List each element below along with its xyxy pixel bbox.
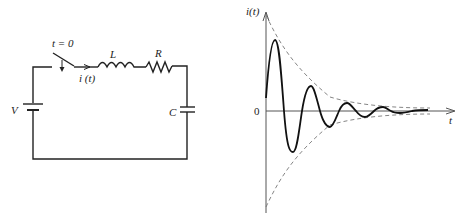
figure: t = 0 i (t) L R V C i(t) 0 t — [0, 0, 468, 223]
rlc-circuit: t = 0 i (t) L R V C — [11, 37, 195, 159]
inductor-label: L — [109, 48, 116, 60]
current-label: i (t) — [79, 72, 96, 85]
battery-icon — [23, 104, 43, 110]
resistor-icon — [146, 62, 172, 72]
upper-envelope — [266, 15, 430, 108]
switch-label: t = 0 — [52, 37, 74, 49]
y-axis-label: i(t) — [246, 5, 260, 18]
capacitor-icon — [180, 107, 195, 112]
current-response-graph: i(t) 0 t — [246, 5, 455, 213]
capacitor-label: C — [169, 106, 177, 118]
lower-envelope — [266, 114, 430, 207]
switch-icon — [53, 53, 74, 72]
source-label: V — [11, 104, 19, 116]
wire-left-top — [33, 67, 52, 103]
inductor-icon — [98, 63, 146, 68]
resistor-label: R — [154, 47, 162, 59]
wire-bottom — [33, 111, 187, 159]
damped-current-curve — [266, 40, 428, 152]
x-axis-label: t — [449, 114, 453, 126]
origin-label: 0 — [254, 105, 260, 117]
wire-right-top — [172, 66, 187, 107]
